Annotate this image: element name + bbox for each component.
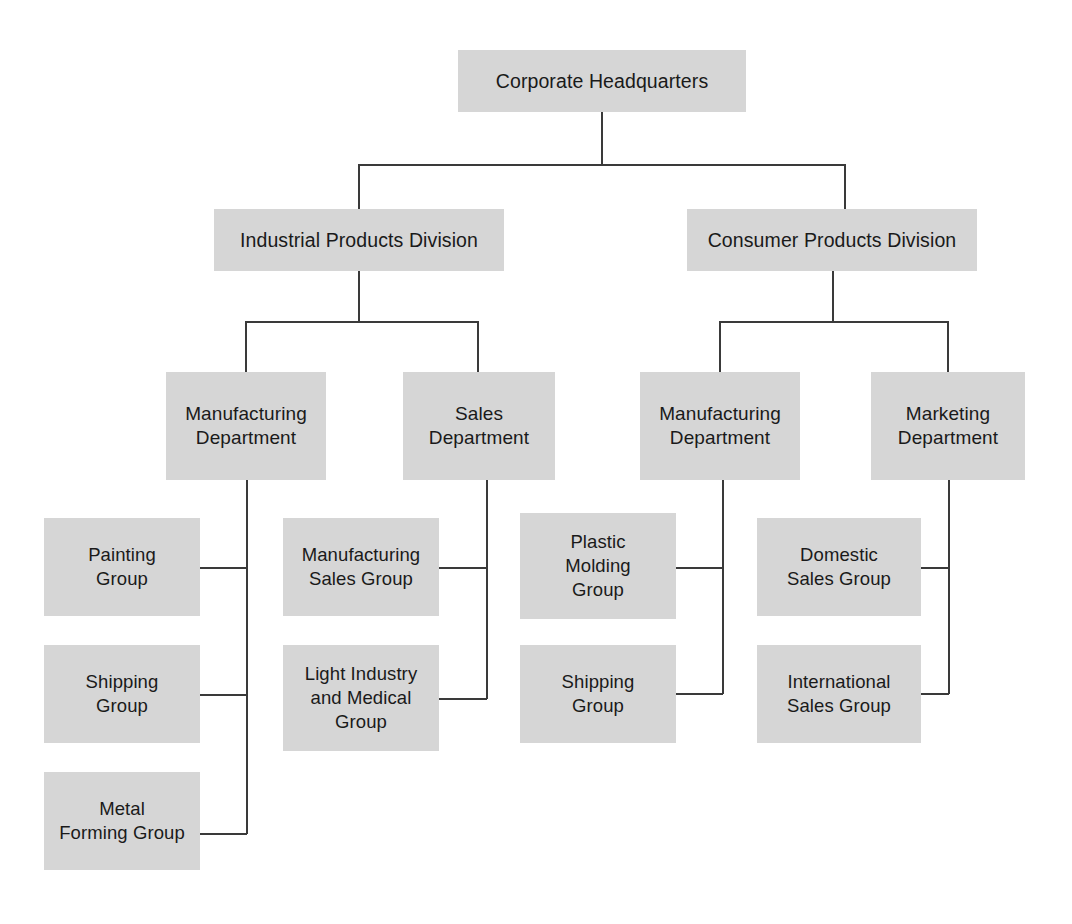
node-consumer-products-division[interactable]: Consumer Products Division — [687, 209, 977, 271]
connector-ind-mfg-spine — [246, 480, 248, 834]
connector-ind-sales-spine — [486, 480, 488, 699]
node-consumer-marketing-department[interactable]: Marketing Department — [871, 372, 1025, 480]
connector-ind-mfg-to-painting — [200, 567, 247, 569]
node-industrial-manufacturing-department[interactable]: Manufacturing Department — [166, 372, 326, 480]
node-painting-group[interactable]: Painting Group — [44, 518, 200, 616]
connector-industrial-drop — [358, 271, 360, 322]
connector-industrial-to-sales-dept — [477, 321, 479, 372]
node-plastic-molding-group[interactable]: Plastic Molding Group — [520, 513, 676, 619]
connector-ind-mfg-to-metal-forming — [200, 833, 247, 835]
node-light-industry-and-medical-group[interactable]: Light Industry and Medical Group — [283, 645, 439, 751]
node-industrial-shipping-group[interactable]: Shipping Group — [44, 645, 200, 743]
connector-consumer-bus — [719, 321, 948, 323]
connector-con-marketing-to-international — [921, 693, 949, 695]
org-chart-canvas: Corporate Headquarters Industrial Produc… — [0, 0, 1072, 924]
connector-root-to-consumer — [844, 164, 846, 209]
connector-industrial-to-mfg-dept — [245, 321, 247, 372]
node-industrial-products-division[interactable]: Industrial Products Division — [214, 209, 504, 271]
connector-industrial-bus — [245, 321, 478, 323]
node-industrial-sales-department[interactable]: Sales Department — [403, 372, 555, 480]
connector-con-marketing-to-domestic — [921, 567, 949, 569]
connector-consumer-drop — [832, 271, 834, 322]
connector-ind-mfg-to-shipping — [200, 694, 247, 696]
connector-ind-sales-to-mfg-sales — [439, 567, 487, 569]
connector-con-mfg-spine — [722, 480, 724, 694]
connector-ind-sales-to-light-industry — [439, 698, 487, 700]
node-consumer-manufacturing-department[interactable]: Manufacturing Department — [640, 372, 800, 480]
connector-consumer-to-mfg-dept — [719, 321, 721, 372]
connector-con-marketing-spine — [948, 480, 950, 694]
connector-con-mfg-to-plastic-molding — [676, 567, 723, 569]
connector-root-bus — [358, 164, 845, 166]
connector-root-drop — [601, 112, 603, 165]
connector-root-to-industrial — [358, 164, 360, 209]
node-corporate-headquarters[interactable]: Corporate Headquarters — [458, 50, 746, 112]
node-metal-forming-group[interactable]: Metal Forming Group — [44, 772, 200, 870]
node-international-sales-group[interactable]: International Sales Group — [757, 645, 921, 743]
node-manufacturing-sales-group[interactable]: Manufacturing Sales Group — [283, 518, 439, 616]
node-domestic-sales-group[interactable]: Domestic Sales Group — [757, 518, 921, 616]
connector-con-mfg-to-shipping — [676, 693, 723, 695]
connector-consumer-to-marketing-dept — [947, 321, 949, 372]
node-consumer-shipping-group[interactable]: Shipping Group — [520, 645, 676, 743]
